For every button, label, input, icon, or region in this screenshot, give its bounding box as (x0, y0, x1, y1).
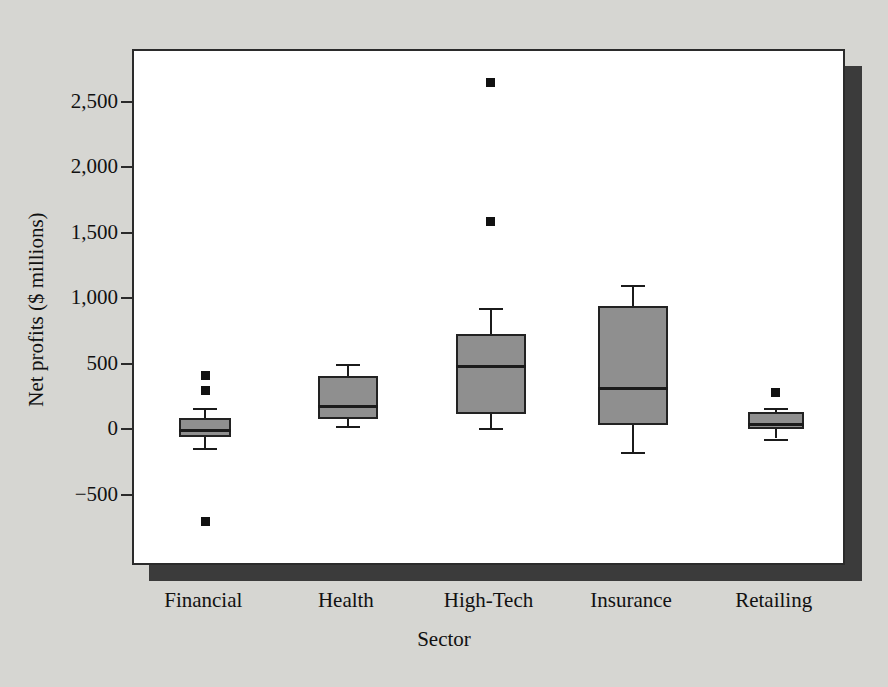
y-axis-tick-mark (121, 166, 132, 168)
y-axis-tick-label-group: 2,5002,0001,5001,0005000−500 (0, 0, 118, 687)
y-axis-tick-mark (121, 101, 132, 103)
y-axis-tick-mark (121, 428, 132, 430)
y-axis-tick-label: −500 (8, 484, 118, 505)
whisker-lower-line (775, 429, 777, 438)
plot-area (134, 51, 843, 563)
box-plot-retailing (134, 51, 843, 563)
plot-frame (132, 49, 845, 565)
whisker-lower-cap (764, 439, 788, 441)
median-line (748, 423, 804, 426)
box-plot-chart: 2,5002,0001,5001,0005000−500 Net profits… (0, 0, 888, 687)
y-axis-tick-mark (121, 232, 132, 234)
box-iqr (748, 412, 804, 429)
y-axis-title: Net profits ($ millions) (24, 145, 49, 475)
y-axis-tick-mark (121, 494, 132, 496)
x-axis-title: Sector (0, 627, 888, 652)
outlier-marker (771, 388, 780, 397)
y-axis-tick-label: 2,500 (8, 91, 118, 112)
y-axis-tick-mark (121, 297, 132, 299)
x-axis-tick-label-retailing: Retailing (689, 588, 859, 613)
y-axis-tick-mark (121, 363, 132, 365)
whisker-upper-cap (764, 408, 788, 410)
